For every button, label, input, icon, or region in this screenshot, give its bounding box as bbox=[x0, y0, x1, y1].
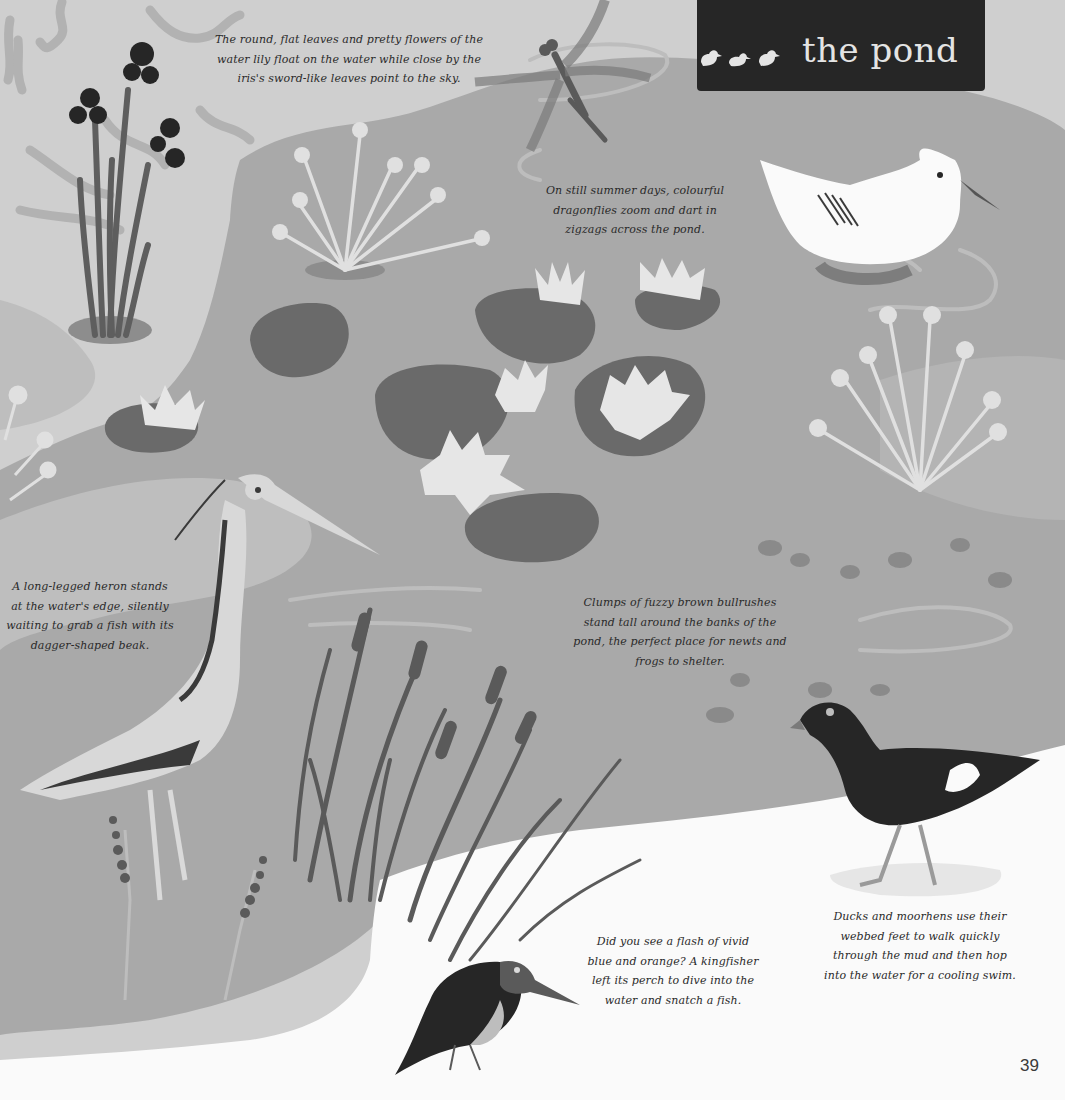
caption-line: dagger-shaped beak. bbox=[0, 636, 180, 656]
book-page: the pond The round, flat leaves and pret… bbox=[0, 0, 1065, 1100]
caption-line: webbed feet to walk quickly bbox=[810, 927, 1030, 947]
caption-line: water and snatch a fish. bbox=[578, 991, 768, 1011]
caption-line: waiting to grab a fish with its bbox=[0, 616, 180, 636]
caption-moorhen: Ducks and moorhens use their webbed feet… bbox=[810, 907, 1030, 985]
caption-line: at the water's edge, silently bbox=[0, 597, 180, 617]
caption-line: iris's sword-like leaves point to the sk… bbox=[194, 69, 504, 89]
caption-bullrushes: Clumps of fuzzy brown bullrushes stand t… bbox=[565, 593, 795, 671]
section-title: the pond bbox=[802, 30, 958, 70]
caption-line: left its perch to dive into the bbox=[578, 971, 768, 991]
caption-line: Ducks and moorhens use their bbox=[810, 907, 1030, 927]
page-number: 39 bbox=[1020, 1056, 1039, 1076]
caption-line: The round, flat leaves and pretty flower… bbox=[194, 30, 504, 50]
caption-line: water lily float on the water while clos… bbox=[194, 50, 504, 70]
caption-water-lily: The round, flat leaves and pretty flower… bbox=[194, 30, 504, 89]
caption-kingfisher: Did you see a flash of vivid blue and or… bbox=[578, 932, 768, 1010]
caption-line: Clumps of fuzzy brown bullrushes bbox=[565, 593, 795, 613]
caption-line: through the mud and then hop bbox=[810, 946, 1030, 966]
caption-line: A long-legged heron stands bbox=[0, 577, 180, 597]
caption-line: pond, the perfect place for newts and bbox=[565, 632, 795, 652]
caption-line: On still summer days, colourful bbox=[530, 181, 740, 201]
caption-line: blue and orange? A kingfisher bbox=[578, 952, 768, 972]
caption-heron: A long-legged heron stands at the water'… bbox=[0, 577, 180, 655]
caption-line: Did you see a flash of vivid bbox=[578, 932, 768, 952]
caption-line: stand tall around the banks of the bbox=[565, 613, 795, 633]
caption-line: dragonflies zoom and dart in bbox=[530, 201, 740, 221]
caption-dragonfly: On still summer days, colourful dragonfl… bbox=[530, 181, 740, 240]
section-title-banner: the pond bbox=[697, 0, 985, 91]
caption-line: zigzags across the pond. bbox=[530, 220, 740, 240]
caption-line: frogs to shelter. bbox=[565, 652, 795, 672]
caption-line: into the water for a cooling swim. bbox=[810, 966, 1030, 986]
ducklings-icon bbox=[699, 44, 789, 68]
